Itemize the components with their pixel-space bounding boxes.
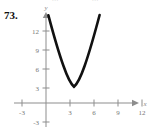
parabola-curve bbox=[48, 15, 99, 87]
x-axis-label: x bbox=[142, 100, 147, 108]
x-tick-label-12: 12 bbox=[139, 109, 147, 117]
figure-page: ... ... 73. -3 3 6 bbox=[0, 0, 153, 131]
y-tick-label-3: 3 bbox=[36, 85, 40, 93]
y-tick-label--3: -3 bbox=[33, 119, 39, 127]
x-tick-label-3: 3 bbox=[68, 109, 72, 117]
parabola-graph: -3 3 6 9 12 12 9 6 3 -3 x y bbox=[0, 0, 153, 131]
x-tick-label-9: 9 bbox=[116, 109, 120, 117]
graph-svg: -3 3 6 9 12 12 9 6 3 -3 x y bbox=[0, 0, 153, 131]
y-tick-label-9: 9 bbox=[36, 47, 40, 55]
x-tick-label-6: 6 bbox=[92, 109, 96, 117]
x-tick-label--3: -3 bbox=[19, 109, 25, 117]
y-tick-label-6: 6 bbox=[36, 66, 40, 74]
x-axis-arrowhead bbox=[132, 100, 139, 106]
y-tick-label-12: 12 bbox=[32, 28, 40, 36]
y-axis-label: y bbox=[43, 4, 48, 12]
